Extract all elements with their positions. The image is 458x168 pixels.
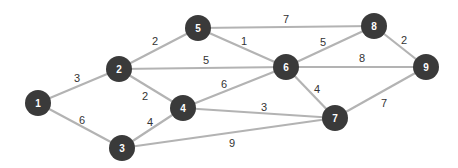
- edge-weight-label: 2: [142, 90, 148, 102]
- edge-weight-label: 4: [147, 116, 153, 128]
- edge-2-6: [119, 67, 286, 69]
- graph-node-3: 3: [109, 135, 135, 161]
- edge-weight-label: 4: [314, 83, 320, 95]
- edge-weight-label: 6: [79, 114, 85, 126]
- edge-2-5: [119, 28, 198, 69]
- edges-layer: [38, 26, 426, 148]
- graph-node-8: 8: [361, 13, 387, 39]
- graph-node-7: 7: [322, 105, 348, 131]
- edge-weight-label: 2: [401, 34, 407, 46]
- edge-weight-label: 3: [261, 101, 267, 113]
- node-label: 1: [35, 98, 41, 109]
- edge-weight-label: 2: [152, 35, 158, 47]
- graph-node-9: 9: [413, 54, 439, 80]
- graph-node-4: 4: [170, 95, 196, 121]
- edge-5-6: [198, 28, 286, 67]
- weighted-graph-diagram: 3625249637158427 123456789: [0, 0, 458, 168]
- node-label: 9: [423, 62, 429, 73]
- edge-weight-label: 1: [241, 35, 247, 47]
- edge-weight-label: 5: [203, 54, 209, 66]
- graph-node-6: 6: [273, 54, 299, 80]
- graph-node-2: 2: [106, 56, 132, 82]
- node-label: 8: [371, 21, 377, 32]
- edge-4-7: [183, 108, 335, 118]
- node-label: 5: [195, 23, 201, 34]
- edge-weight-label: 7: [381, 97, 387, 109]
- edge-weight-label: 3: [74, 72, 80, 84]
- node-label: 6: [283, 62, 289, 73]
- edge-weight-label: 9: [229, 137, 235, 149]
- edge-weight-label: 7: [283, 13, 289, 25]
- node-label: 3: [119, 143, 125, 154]
- node-label: 7: [332, 113, 338, 124]
- node-label: 4: [180, 103, 186, 114]
- edge-weight-label: 5: [320, 36, 326, 48]
- edge-weight-label: 6: [221, 78, 227, 90]
- node-label: 2: [116, 64, 122, 75]
- edge-weight-label: 8: [359, 52, 365, 64]
- graph-node-5: 5: [185, 15, 211, 41]
- edge-5-8: [198, 26, 374, 28]
- graph-node-1: 1: [25, 90, 51, 116]
- edge-7-9: [335, 67, 426, 118]
- edge-4-6: [183, 67, 286, 108]
